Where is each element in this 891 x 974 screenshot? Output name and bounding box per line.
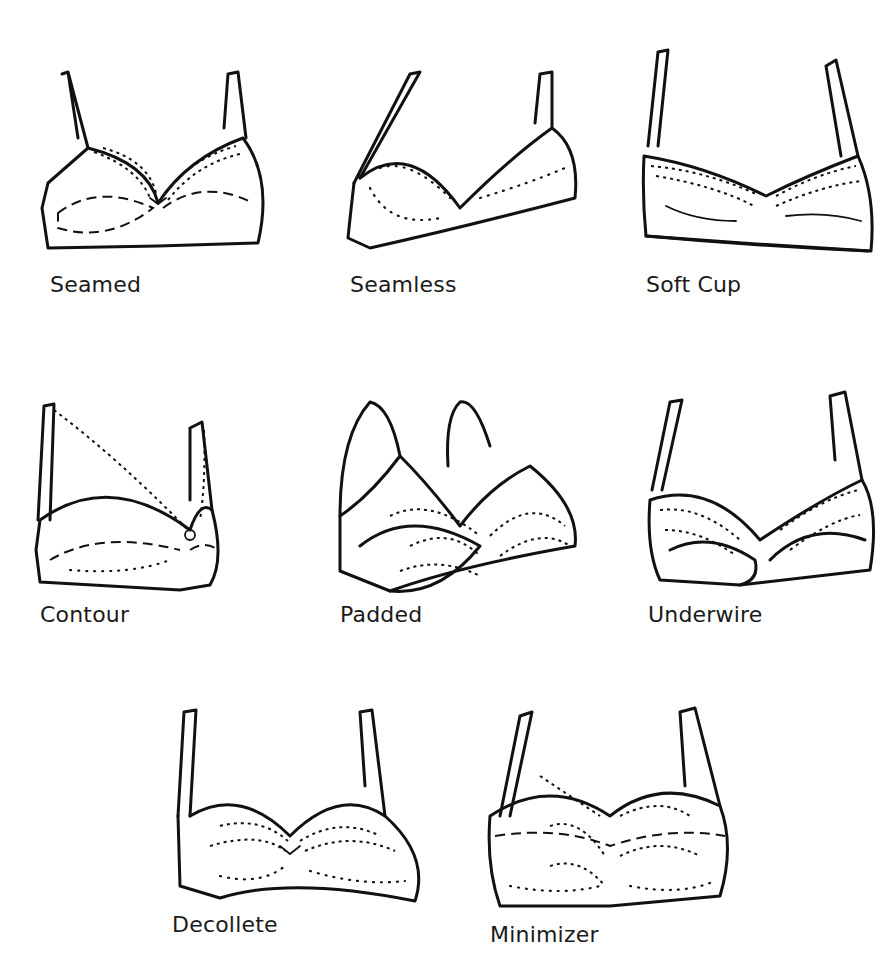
figure-item-contour: Contour — [30, 400, 270, 640]
figure-item-seamed: Seamed — [38, 68, 278, 308]
caption-padded: Padded — [340, 602, 422, 627]
figure-item-minimizer: Minimizer — [480, 706, 740, 968]
padded-bra-icon — [330, 396, 590, 596]
caption-seamed: Seamed — [50, 272, 141, 297]
figure-item-padded: Padded — [330, 396, 590, 640]
minimizer-bra-icon — [480, 706, 740, 916]
soft-cup-bra-icon — [636, 46, 876, 256]
figure-item-seamless: Seamless — [340, 68, 580, 308]
figure-item-underwire: Underwire — [640, 390, 880, 640]
underwire-bra-icon — [640, 390, 880, 590]
caption-underwire: Underwire — [648, 602, 763, 627]
caption-contour: Contour — [40, 602, 129, 627]
figure-item-decollete: Decollete — [160, 706, 440, 956]
figure-item-soft-cup: Soft Cup — [636, 46, 876, 308]
seamed-bra-icon — [38, 68, 278, 258]
contour-bra-icon — [30, 400, 270, 590]
caption-minimizer: Minimizer — [490, 922, 599, 947]
decollete-bra-icon — [160, 706, 440, 906]
seamless-bra-icon — [340, 68, 580, 258]
caption-decollete: Decollete — [172, 912, 278, 937]
caption-seamless: Seamless — [350, 272, 457, 297]
caption-soft-cup: Soft Cup — [646, 272, 741, 297]
